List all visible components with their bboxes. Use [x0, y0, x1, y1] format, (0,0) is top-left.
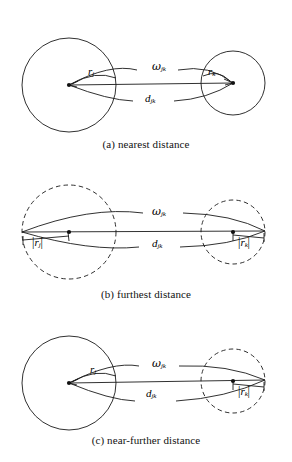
panel-b-caption: (b) furthest distance [0, 288, 292, 300]
panel-a-omega-arc-left [69, 68, 137, 85]
panel-a-caption: (a) nearest distance [0, 138, 292, 150]
panel-b-left-center-dot [67, 230, 71, 234]
panel-a-d-arc-right [174, 83, 233, 101]
panel-b-graphics [22, 185, 265, 279]
panel-b-omega-arc-right [183, 213, 265, 231]
panel-a-left-center-dot [67, 83, 71, 87]
panel-c-omega-arc-right [179, 366, 265, 380]
panel-b-rj-dim-line [23, 236, 69, 240]
panel-b-d-arc-right [180, 231, 265, 247]
panel-a-right-center-dot [231, 81, 235, 85]
panel-c-label-d: djk [146, 388, 156, 400]
panel-a-label-rj: rj [88, 66, 94, 78]
panel-b-right-center-dot [231, 230, 235, 234]
panel-c-label-omega: ωjk [152, 358, 166, 370]
panel-b-center-line [22, 231, 265, 232]
panel-a-omega-arc-right [178, 69, 233, 83]
panel-c-graphics [22, 336, 265, 430]
panel-b-omega-arc-left [22, 212, 143, 232]
panel-c-label-rk-abs: |rk| [238, 385, 250, 398]
panel-c-label-rj: rj [90, 364, 96, 376]
panel-b-label-rj-abs: |rj| [32, 236, 43, 249]
panel-c-omega-arc-left [69, 365, 139, 383]
panel-c-d-arc-left [69, 383, 135, 401]
figure-container: rj ωjk rk djk ωjk djk |rj| |rk| rj ωjk d… [0, 0, 292, 462]
panel-c-d-arc-right [176, 380, 265, 401]
panel-b-label-d: djk [152, 238, 162, 250]
panel-a-label-rk: rk [208, 66, 215, 78]
panel-c-center-line [69, 380, 265, 383]
panel-c-caption: (c) near-further distance [0, 434, 292, 446]
panel-a-graphics [22, 38, 265, 132]
panel-c-left-center-dot [67, 381, 71, 385]
panel-b-label-omega: ωjk [152, 206, 166, 218]
panel-c-right-center-dot [231, 379, 235, 383]
panel-a-label-d: djk [145, 93, 155, 105]
panel-a-d-arc-left [69, 85, 133, 101]
panel-a-label-omega: ωjk [152, 61, 166, 73]
panel-b-label-rk-abs: |rk| [238, 236, 250, 249]
panel-a-center-line [69, 83, 233, 85]
